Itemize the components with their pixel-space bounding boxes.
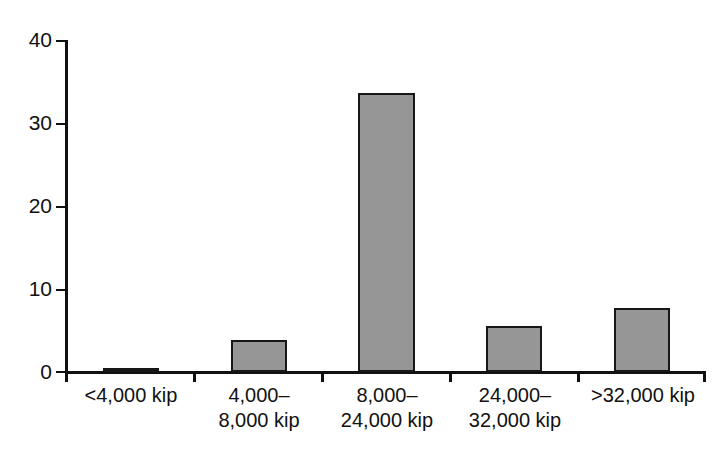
bar-4[interactable] (614, 308, 670, 372)
x-axis-tick-3 (449, 371, 452, 382)
y-axis-label-40: 40 (4, 29, 52, 50)
bar-3[interactable] (486, 326, 542, 372)
y-axis-label-20: 20 (4, 195, 52, 216)
bar-2[interactable] (358, 93, 414, 372)
x-axis-label-0: <4,000 kip (67, 383, 195, 408)
x-axis-label-1: 4,000– 8,000 kip (195, 383, 323, 433)
x-axis-label-2: 8,000– 24,000 kip (323, 383, 451, 433)
bar-0[interactable] (103, 368, 159, 372)
bar-1[interactable] (231, 340, 287, 372)
x-axis-label-3: 24,000– 32,000 kip (451, 383, 579, 433)
y-axis-label-30: 30 (4, 112, 52, 133)
x-axis-tick-0 (65, 371, 68, 382)
x-axis-tick-5 (703, 371, 706, 382)
x-axis-label-4: >32,000 kip (579, 383, 707, 408)
x-axis-tick-1 (193, 371, 196, 382)
plot-area (67, 40, 706, 372)
x-axis-tick-4 (577, 371, 580, 382)
x-axis-labels: <4,000 kip 4,000– 8,000 kip 8,000– 24,00… (67, 383, 706, 453)
y-axis-label-0: 0 (4, 361, 52, 382)
y-axis-label-10: 10 (4, 278, 52, 299)
bar-chart-figure: 40 30 20 10 0 <4,000 kip 4,000– 8,000 ki… (0, 0, 722, 459)
y-axis-labels: 40 30 20 10 0 (0, 0, 52, 459)
x-axis-tick-2 (321, 371, 324, 382)
